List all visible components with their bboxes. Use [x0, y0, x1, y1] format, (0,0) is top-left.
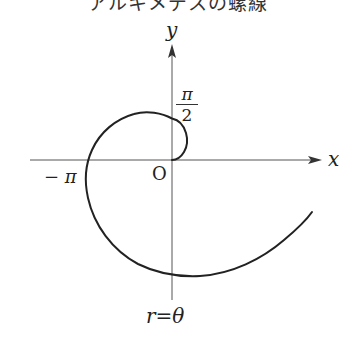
pi-half-label: π 2 — [176, 86, 198, 124]
pi-half-numerator: π — [176, 86, 198, 103]
origin-label: O — [152, 165, 167, 183]
equation-equals: = — [156, 304, 173, 328]
equation-r: r — [146, 304, 156, 328]
equation-theta: θ — [172, 304, 184, 328]
y-axis-label: y — [166, 20, 177, 40]
minus-pi-label: − π — [44, 168, 77, 186]
pi-half-denominator: 2 — [176, 107, 198, 124]
x-axis-label: x — [328, 149, 339, 169]
equation-label: r=θ — [146, 306, 184, 326]
archimedean-spiral-curve — [86, 112, 312, 276]
